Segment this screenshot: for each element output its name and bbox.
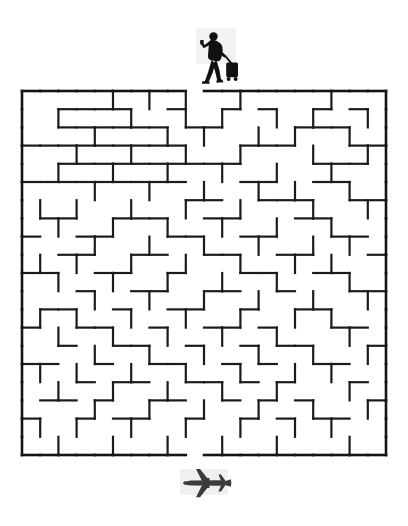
- maze-container: [20, 88, 388, 458]
- traveler-with-luggage-icon: [190, 28, 242, 88]
- airplane-icon: [178, 466, 236, 500]
- maze-page: Travel Maze Puzzle: [0, 0, 408, 526]
- maze-grid: [20, 88, 388, 458]
